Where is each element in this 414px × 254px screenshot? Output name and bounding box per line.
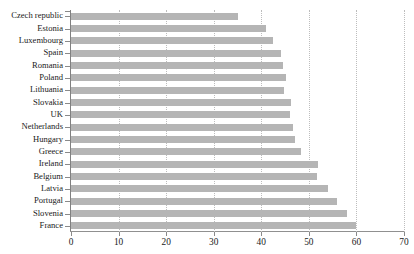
bar-row[interactable] [71,195,404,207]
y-axis-label: Belgium [0,172,63,181]
plot-area [71,10,404,232]
bar-row[interactable] [71,170,404,182]
y-axis-label: Portugal [0,196,63,205]
y-axis-labels: Czech republicEstoniaLuxembourgSpainRoma… [0,10,63,232]
x-tick-40 [261,232,262,236]
bar-portugal[interactable] [71,198,337,205]
bar-poland[interactable] [71,74,286,81]
bar-belgium[interactable] [71,173,317,180]
bar-romania[interactable] [71,62,283,69]
y-axis-label: Ireland [0,159,63,168]
bar-hungary[interactable] [71,136,295,143]
gridline-70 [404,10,405,232]
y-tick [65,152,70,153]
y-tick [65,164,70,165]
x-axis-label: 60 [341,237,371,248]
y-tick [65,127,70,128]
y-axis-label: Luxembourg [0,36,63,45]
bar-estonia[interactable] [71,25,266,32]
x-tick-0 [71,232,72,236]
bar-row[interactable] [71,146,404,158]
bar-row[interactable] [71,96,404,108]
bar-spain[interactable] [71,50,281,57]
y-tick [65,53,70,54]
y-axis-label: Greece [0,147,63,156]
y-axis-label: Hungary [0,135,63,144]
y-axis-label: Slovenia [0,209,63,218]
y-axis-label: Latvia [0,184,63,193]
x-axis-label: 0 [56,237,86,248]
x-tick-30 [214,232,215,236]
x-tick-70 [404,232,405,236]
y-tick [65,29,70,30]
bar-ireland[interactable] [71,161,318,168]
bar-chart: Czech republicEstoniaLuxembourgSpainRoma… [0,0,414,254]
y-axis-label: France [0,221,63,230]
x-axis-label: 40 [246,237,276,248]
y-tick [65,189,70,190]
bar-greece[interactable] [71,148,301,155]
y-tick [65,214,70,215]
bar-row[interactable] [71,10,404,22]
bar-row[interactable] [71,121,404,133]
x-axis-label: 20 [151,237,181,248]
y-axis-label: Lithuania [0,85,63,94]
bar-netherlands[interactable] [71,124,293,131]
y-axis-label: UK [0,110,63,119]
bar-uk[interactable] [71,111,290,118]
bar-luxembourg[interactable] [71,37,273,44]
y-tick [65,140,70,141]
y-axis-label: Estonia [0,24,63,33]
x-tick-50 [309,232,310,236]
x-tick-20 [166,232,167,236]
bar-slovakia[interactable] [71,99,291,106]
y-tick [65,115,70,116]
bar-row[interactable] [71,47,404,59]
bar-czech-republic[interactable] [71,13,238,20]
bar-row[interactable] [71,84,404,96]
bar-row[interactable] [71,22,404,34]
y-tick [65,16,70,17]
bar-row[interactable] [71,220,404,232]
x-tick-10 [119,232,120,236]
bar-lithuania[interactable] [71,87,284,94]
bars-layer [71,10,404,232]
bar-row[interactable] [71,133,404,145]
bar-row[interactable] [71,183,404,195]
y-axis-label: Slovakia [0,98,63,107]
y-tick [65,201,70,202]
bar-row[interactable] [71,158,404,170]
y-tick [65,90,70,91]
y-tick [65,66,70,67]
x-axis-label: 30 [199,237,229,248]
bar-row[interactable] [71,109,404,121]
x-axis-label: 70 [389,237,414,248]
bar-row[interactable] [71,35,404,47]
bar-row[interactable] [71,72,404,84]
y-tick-top [65,11,70,12]
y-axis-label: Spain [0,48,63,57]
y-axis-label: Czech republic [0,11,63,20]
y-tick [65,177,70,178]
x-tick-60 [356,232,357,236]
bar-row[interactable] [71,207,404,219]
y-tick [65,103,70,104]
x-axis-label: 50 [294,237,324,248]
bar-row[interactable] [71,59,404,71]
y-axis-label: Netherlands [0,122,63,131]
bar-slovenia[interactable] [71,210,347,217]
y-tick [65,41,70,42]
bar-latvia[interactable] [71,185,328,192]
y-axis-label: Romania [0,61,63,70]
y-axis-label: Poland [0,73,63,82]
bar-france[interactable] [71,222,356,229]
x-axis-label: 10 [104,237,134,248]
y-tick [65,78,70,79]
y-tick [65,226,70,227]
